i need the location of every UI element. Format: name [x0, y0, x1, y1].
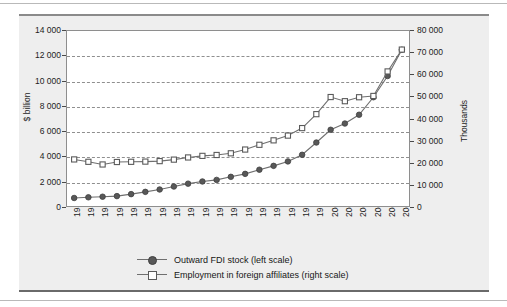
- right-axis-tick-mark: [410, 185, 414, 186]
- open-square-marker: [72, 157, 77, 162]
- filled-circle-marker: [200, 179, 206, 185]
- filled-circle-marker: [71, 195, 77, 201]
- left-axis-tick-label: 4 000: [17, 151, 61, 161]
- right-axis-tick-mark: [410, 141, 414, 142]
- filled-circle-marker: [271, 163, 277, 169]
- right-axis-tick-label: 10 000: [417, 180, 461, 190]
- plot-area: [66, 30, 410, 207]
- right-axis-tick-mark: [410, 163, 414, 164]
- filled-circle-marker: [171, 184, 177, 190]
- open-square-marker: [186, 155, 191, 160]
- left-axis-tick-label: 6 000: [17, 126, 61, 136]
- page-rule-bottom: [0, 300, 507, 301]
- open-square-marker: [137, 269, 167, 280]
- left-axis-tick-label: 12 000: [17, 50, 61, 60]
- open-square-marker: [399, 47, 404, 52]
- filled-circle-marker: [285, 159, 291, 165]
- filled-circle-marker: [228, 174, 234, 180]
- right-axis-tick-label: 50 000: [417, 91, 461, 101]
- left-axis-tick-label: 14 000: [17, 25, 61, 35]
- filled-circle-marker: [86, 195, 92, 201]
- legend-label-fdi: Outward FDI stock (left scale): [174, 255, 293, 265]
- filled-circle-marker: [143, 189, 149, 195]
- filled-circle-marker: [137, 254, 167, 265]
- filled-circle-marker: [185, 181, 191, 187]
- right-axis-tick-label: 30 000: [417, 136, 461, 146]
- open-square-marker: [157, 159, 162, 164]
- right-axis-tick-label: 70 000: [417, 47, 461, 57]
- right-axis-tick-label: 80 000: [417, 25, 461, 35]
- open-square-marker: [200, 153, 205, 158]
- open-square-marker: [228, 151, 233, 156]
- series-employment: [72, 47, 405, 167]
- right-axis-tick-mark: [410, 52, 414, 53]
- right-axis-tick-mark: [410, 74, 414, 75]
- left-axis-tick-mark: [62, 207, 66, 208]
- filled-circle-marker: [299, 152, 305, 158]
- page-rule-top: [0, 3, 507, 4]
- filled-circle-marker: [328, 127, 334, 133]
- filled-circle-marker: [157, 187, 163, 193]
- open-square-marker: [86, 159, 91, 164]
- right-axis-tick-mark: [410, 96, 414, 97]
- right-axis-tick-label: 40 000: [417, 114, 461, 124]
- filled-circle-marker: [342, 121, 348, 127]
- open-square-marker: [371, 93, 376, 98]
- filled-circle-marker: [314, 140, 320, 146]
- filled-circle-marker: [100, 194, 106, 200]
- series-fdi-stock: [71, 47, 404, 201]
- open-square-marker: [257, 142, 262, 147]
- legend-item-employment: Employment in foreign affiliates (right …: [137, 267, 437, 282]
- open-square-marker: [143, 159, 148, 164]
- open-square-marker: [342, 99, 347, 104]
- open-square-marker: [171, 157, 176, 162]
- filled-circle-marker: [356, 112, 362, 118]
- open-square-marker: [243, 147, 248, 152]
- left-axis-tick-label: 10 000: [17, 76, 61, 86]
- left-axis-tick-label: 2 000: [17, 177, 61, 187]
- filled-circle-marker: [257, 167, 263, 173]
- right-axis-tick-mark: [410, 30, 414, 31]
- left-axis-tick-label: 0: [17, 202, 61, 212]
- open-square-marker: [129, 159, 134, 164]
- open-square-marker: [285, 133, 290, 138]
- open-square-marker: [300, 126, 305, 131]
- open-square-marker: [100, 162, 105, 167]
- open-square-marker: [385, 69, 390, 74]
- legend-item-fdi: Outward FDI stock (left scale): [137, 252, 437, 267]
- filled-circle-marker: [242, 171, 248, 177]
- filled-circle-marker: [114, 193, 120, 199]
- right-axis-tick-label: 60 000: [417, 69, 461, 79]
- filled-circle-marker: [214, 177, 220, 183]
- right-axis-tick-mark: [410, 119, 414, 120]
- figure-panel: $ billion Thousands 02 0004 0006 0008 00…: [19, 14, 489, 292]
- right-axis-tick-label: 0: [417, 202, 461, 212]
- chart-legend: Outward FDI stock (left scale) Employmen…: [137, 252, 437, 282]
- open-square-marker: [314, 112, 319, 117]
- right-axis-tick-label: 20 000: [417, 158, 461, 168]
- open-square-marker: [271, 138, 276, 143]
- open-square-marker: [328, 94, 333, 99]
- open-square-marker: [114, 159, 119, 164]
- series-layer: [67, 31, 409, 206]
- open-square-marker: [357, 95, 362, 100]
- legend-label-employment: Employment in foreign affiliates (right …: [174, 270, 348, 280]
- filled-circle-marker: [128, 191, 134, 197]
- open-square-marker: [214, 152, 219, 157]
- left-axis-tick-label: 8 000: [17, 101, 61, 111]
